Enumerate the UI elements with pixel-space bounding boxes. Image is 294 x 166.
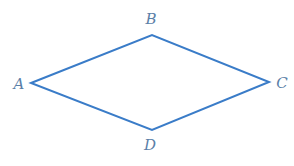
vertex-label-b: B	[145, 12, 156, 27]
vertex-label-d: D	[144, 138, 156, 153]
vertex-label-c: C	[276, 76, 287, 91]
rhombus-diagram: A B C D	[0, 0, 294, 166]
vertex-label-a: A	[14, 77, 25, 92]
rhombus-abcd	[31, 35, 269, 130]
